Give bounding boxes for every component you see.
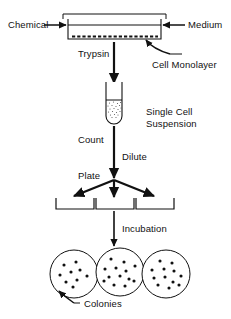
colony-plates [50, 248, 190, 298]
label-medium: Medium [188, 19, 222, 31]
colony-plate-3 [142, 250, 190, 298]
colony-dot [124, 269, 127, 272]
label-single-cell-suspension-line1: Single Cell [146, 106, 193, 118]
colony-dot [132, 279, 135, 282]
plating-arrows [74, 180, 154, 197]
cell-culture-assay-diagram: Chemical Medium Trypsin Cell Monolayer S… [0, 0, 231, 319]
colony-dot [167, 286, 170, 289]
colony-dot [179, 274, 182, 277]
colony-dot [114, 266, 117, 269]
cell-monolayer-leader [146, 40, 182, 54]
label-plate: Plate [78, 170, 100, 182]
colony-dot [150, 268, 153, 271]
label-colonies: Colonies [84, 298, 122, 310]
colony-dot [62, 263, 65, 266]
colony-dot [64, 280, 67, 283]
colony-dot [69, 270, 72, 273]
colony-dot [123, 284, 126, 287]
colony-dot [156, 283, 159, 286]
label-cell-monolayer: Cell Monolayer [152, 59, 217, 71]
colony-dot [75, 278, 78, 281]
colony-dot [78, 268, 81, 271]
colony-dot [170, 261, 173, 264]
colony-dot [102, 279, 105, 282]
label-count: Count [78, 134, 104, 146]
colony-dot [152, 276, 155, 279]
colony-dot [171, 280, 174, 283]
colony-dot [109, 257, 112, 260]
colony-dot [133, 264, 136, 267]
culture-dishes [56, 198, 174, 209]
label-incubation: Incubation [122, 223, 167, 235]
colony-dot [163, 275, 166, 278]
label-trypsin: Trypsin [78, 48, 110, 60]
colony-dot [158, 259, 161, 262]
colony-dot [107, 275, 110, 278]
colony-plate-1 [50, 250, 98, 298]
label-chemical: Chemical [8, 19, 48, 31]
colony-dot [172, 269, 175, 272]
colony-dot [71, 285, 74, 288]
colony-dot [103, 267, 106, 270]
colony-dot [74, 260, 77, 263]
colony-plate-2 [96, 248, 144, 296]
culture-dish-1 [56, 198, 94, 209]
test-tube [106, 82, 122, 124]
colony-dot [85, 274, 88, 277]
culture-dish-2 [96, 198, 134, 209]
culture-flask [63, 14, 166, 39]
colony-dot [127, 277, 130, 280]
colony-dot [58, 273, 61, 276]
colony-dot [122, 260, 125, 263]
colony-dot [118, 274, 121, 277]
diagram-canvas [0, 0, 231, 319]
culture-dish-3 [136, 198, 174, 209]
colony-dot [112, 283, 115, 286]
label-dilute: Dilute [122, 151, 147, 163]
colony-dot [177, 283, 180, 286]
colony-dot [162, 267, 165, 270]
label-single-cell-suspension-line2: Suspension [146, 118, 197, 130]
